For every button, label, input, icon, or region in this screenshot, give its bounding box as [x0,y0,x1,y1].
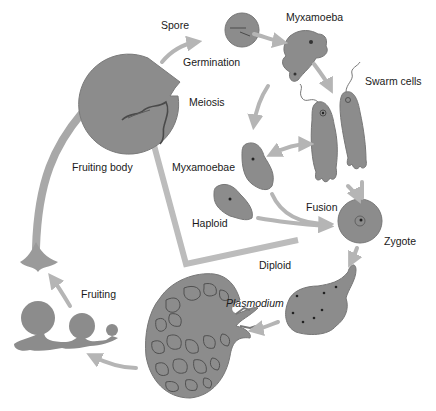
label-fusion: Fusion [306,202,338,213]
label-zygote: Zygote [384,236,416,247]
label-spore: Spore [161,20,189,31]
arrow-myxamoebae-swarm-cells [272,144,308,154]
fruiting-body-illustration [79,54,180,154]
label-meiosis: Meiosis [189,97,225,108]
arrow-spore-to-myxamoeba [254,34,282,42]
plasmodium-illustration [146,274,258,398]
arrow-young-to-mature-plasmodium [254,322,278,330]
stalk-arc [20,113,82,272]
swarm-cells-illustration [300,62,366,182]
arrow-myxamoeba-to-swarm-cells [314,64,330,88]
label-swarm-cells: Swarm cells [365,76,422,87]
life-cycle-diagram: Spore Germination Myxamoeba Swarm cells … [0,0,436,411]
spore-illustration [225,13,259,47]
label-germination: Germination [183,57,240,68]
label-diploid: Diploid [259,260,291,271]
arrow-zygote-to-plasmodium [351,248,357,262]
young-plasmodium-illustration [286,265,356,335]
myxamoebae-illustration [214,143,273,220]
arrow-fruiting-to-stalk [52,278,70,306]
label-haploid: Haploid [192,218,228,229]
label-plasmodium: Plasmodium [226,298,284,309]
arrow-plasmodium-to-fruiting [92,356,136,368]
label-fruiting: Fruiting [81,289,116,300]
arrow-swarm-cells-to-zygote [348,186,358,198]
label-fruiting-body: Fruiting body [72,162,133,173]
fruiting-sporangia-illustration [14,301,118,351]
arrow-myxamoeba-to-myxamoebae [254,86,268,124]
label-myxamoebae: Myxamoebae [172,162,235,173]
zygote-illustration [338,199,382,243]
label-myxamoeba: Myxamoeba [286,12,343,23]
